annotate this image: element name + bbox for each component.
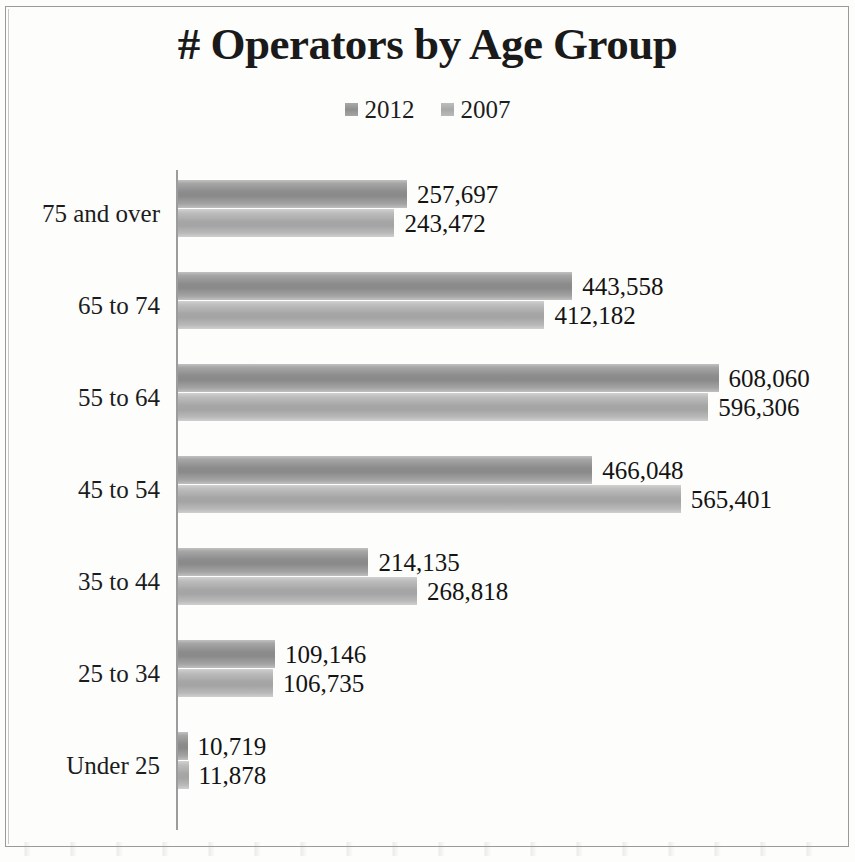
bar-group: 55 to 64608,060596,306 [0, 352, 855, 444]
bar-2007[interactable] [178, 209, 394, 237]
category-label: Under 25 [0, 752, 160, 780]
bar-value-label: 10,719 [198, 734, 267, 759]
category-label: 75 and over [0, 200, 160, 228]
bar-row: 243,472 [178, 209, 486, 237]
bar-value-label: 257,697 [417, 182, 498, 207]
chart-legend: 2012 2007 [0, 97, 855, 122]
bar-value-label: 106,735 [283, 671, 364, 696]
legend-swatch-icon-2007 [441, 103, 454, 116]
bar-row: 109,146 [178, 640, 366, 668]
legend-swatch-icon-2012 [345, 103, 358, 116]
bar-row: 466,048 [178, 456, 684, 484]
bar-group: 35 to 44214,135268,818 [0, 536, 855, 628]
bar-2012[interactable] [178, 548, 368, 576]
bar-row: 565,401 [178, 485, 772, 513]
bar-2007[interactable] [178, 485, 681, 513]
legend-item-2007[interactable]: 2007 [441, 97, 511, 122]
category-label: 55 to 64 [0, 384, 160, 412]
bar-value-label: 412,182 [554, 303, 635, 328]
chart-container: # Operators by Age Group 2012 2007 75 an… [0, 0, 855, 862]
bar-group: 45 to 54466,048565,401 [0, 444, 855, 536]
legend-label-2012: 2012 [365, 97, 415, 122]
bar-value-label: 11,878 [199, 763, 267, 788]
legend-item-2012[interactable]: 2012 [345, 97, 415, 122]
bar-2012[interactable] [178, 732, 188, 760]
bar-2007[interactable] [178, 301, 544, 329]
bar-2007[interactable] [178, 669, 273, 697]
bar-row: 596,306 [178, 393, 799, 421]
bar-group: 65 to 74443,558412,182 [0, 260, 855, 352]
category-label: 35 to 44 [0, 568, 160, 596]
bar-row: 268,818 [178, 577, 508, 605]
bar-value-label: 214,135 [378, 550, 459, 575]
scan-artifact [10, 842, 845, 856]
bar-2012[interactable] [178, 272, 572, 300]
bar-2012[interactable] [178, 364, 719, 392]
category-label: 45 to 54 [0, 476, 160, 504]
bar-group: 25 to 34109,146106,735 [0, 628, 855, 720]
bar-2007[interactable] [178, 393, 708, 421]
bar-2012[interactable] [178, 640, 275, 668]
bar-group: 75 and over257,697243,472 [0, 168, 855, 260]
bar-2012[interactable] [178, 180, 407, 208]
bar-2007[interactable] [178, 761, 189, 789]
bar-row: 10,719 [178, 732, 266, 760]
bar-row: 214,135 [178, 548, 460, 576]
bar-value-label: 268,818 [427, 579, 508, 604]
plot-area: 75 and over257,697243,47265 to 74443,558… [0, 160, 855, 840]
chart-title: # Operators by Age Group [0, 18, 855, 70]
bar-value-label: 243,472 [404, 211, 485, 236]
bar-row: 443,558 [178, 272, 664, 300]
bar-2012[interactable] [178, 456, 592, 484]
bar-row: 608,060 [178, 364, 810, 392]
bar-2007[interactable] [178, 577, 417, 605]
legend-label-2007: 2007 [461, 97, 511, 122]
bar-value-label: 596,306 [718, 395, 799, 420]
category-label: 25 to 34 [0, 660, 160, 688]
bar-row: 11,878 [178, 761, 266, 789]
category-label: 65 to 74 [0, 292, 160, 320]
bar-row: 106,735 [178, 669, 364, 697]
bar-value-label: 565,401 [691, 487, 772, 512]
bar-value-label: 109,146 [285, 642, 366, 667]
bar-value-label: 608,060 [729, 366, 810, 391]
bar-value-label: 443,558 [582, 274, 663, 299]
bar-row: 412,182 [178, 301, 636, 329]
bar-row: 257,697 [178, 180, 498, 208]
bar-group: Under 2510,71911,878 [0, 720, 855, 812]
bar-value-label: 466,048 [602, 458, 683, 483]
